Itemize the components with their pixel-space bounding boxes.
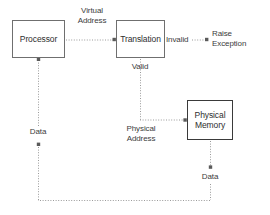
edge-label-data-right: Data bbox=[188, 172, 232, 182]
edge-label-virtual-address: Virtual Address bbox=[62, 6, 122, 25]
edge-label-data-left: Data bbox=[14, 127, 62, 137]
node-processor-label: Processor bbox=[20, 34, 57, 44]
node-translation[interactable]: Translation bbox=[116, 20, 165, 58]
edge-label-physical-address: Physical Address bbox=[112, 124, 170, 143]
node-physical-memory-label: Physical Memory bbox=[195, 110, 226, 130]
node-physical-memory[interactable]: Physical Memory bbox=[187, 100, 233, 140]
edge-label-valid: Valid bbox=[120, 62, 160, 72]
arrowhead-data-left-mid bbox=[37, 143, 40, 146]
node-translation-label: Translation bbox=[120, 34, 161, 44]
diagram-canvas: Processor Translation Physical Memory Vi… bbox=[0, 0, 270, 215]
edge-label-invalid: Invalid bbox=[166, 35, 198, 45]
arrowhead-invalid-terminal bbox=[205, 38, 208, 41]
arrowhead-memory-data bbox=[209, 165, 212, 168]
node-processor[interactable]: Processor bbox=[12, 20, 65, 58]
arrowhead-into-processor bbox=[37, 58, 40, 61]
terminal-label-raise-exception: Raise Exception bbox=[212, 29, 268, 48]
